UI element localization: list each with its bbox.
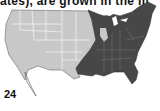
us-map xyxy=(0,0,160,111)
page-number: 24 xyxy=(4,88,16,100)
map-region-baja xyxy=(25,72,36,96)
